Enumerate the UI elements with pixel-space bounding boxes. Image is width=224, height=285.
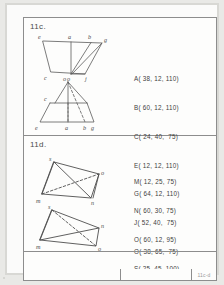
panel-11d: 11d. s o m bbox=[24, 136, 216, 252]
scan-speck bbox=[3, 277, 5, 279]
vertex-label-a: a bbox=[68, 33, 71, 40]
title-block-cell-middle bbox=[121, 269, 192, 280]
vertex-label-o: o bbox=[101, 169, 104, 176]
figure-lower-trapezoid: o c e a b g bbox=[32, 76, 120, 132]
coordinate-list-11d: M( 12, 25, 75) N( 60, 30, 75) O( 60, 12,… bbox=[134, 158, 179, 285]
vertex-label-o-lower: o bbox=[63, 75, 66, 82]
vertex-label-m-lower: m bbox=[36, 243, 41, 250]
panel-label-11d: 11d. bbox=[30, 140, 47, 149]
coordinate-entry: B( 60, 12, 110) bbox=[134, 103, 180, 113]
title-block-code: 11c-d bbox=[192, 269, 216, 280]
vertex-label-m: m bbox=[36, 197, 41, 204]
title-block-cell-left bbox=[24, 269, 121, 280]
coordinate-entry: A( 38, 12, 110) bbox=[134, 74, 180, 84]
coordinate-entry: M( 12, 25, 75) bbox=[134, 177, 179, 187]
panel-11c: 11c. e bbox=[24, 18, 216, 136]
vertex-label-n-lower: n bbox=[101, 222, 104, 229]
figure-upper-quadrilateral: s o m n bbox=[36, 156, 116, 208]
vertex-label-g-lower: g bbox=[91, 124, 94, 131]
vertex-label-o-lower2: o bbox=[98, 245, 101, 252]
vertex-label-c-lower: c bbox=[44, 95, 47, 102]
coordinate-entry: O( 60, 12, 95) bbox=[134, 235, 179, 245]
vertex-label-b: b bbox=[88, 33, 91, 40]
worksheet-page: 11c. e bbox=[7, 5, 217, 273]
vertex-label-g: g bbox=[104, 36, 107, 43]
vertex-label-e: e bbox=[38, 33, 41, 40]
title-block: 11c-d bbox=[23, 269, 217, 281]
figure-lower-quadrilateral: s n m o bbox=[36, 206, 118, 252]
vertex-label-b-lower: b bbox=[83, 124, 86, 131]
vertex-label-a-lower: a bbox=[65, 124, 68, 131]
vertex-label-s: s bbox=[49, 155, 52, 162]
panel-label-11c: 11c. bbox=[30, 22, 46, 31]
drawing-frame: 11c. e bbox=[23, 17, 217, 271]
vertex-label-n: n bbox=[91, 199, 94, 206]
vertex-label-e-lower: e bbox=[35, 124, 38, 131]
figure-upper-trapezoid: e a b g c o j bbox=[38, 32, 118, 82]
coordinate-entry: N( 60, 30, 75) bbox=[134, 206, 179, 216]
